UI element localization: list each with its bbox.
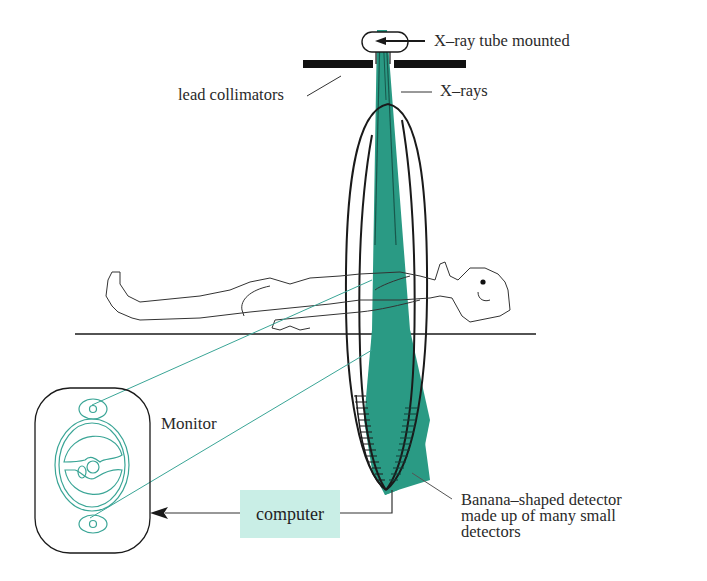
detector-leader-line <box>412 473 452 499</box>
detector-label-line-3: detectors <box>461 524 701 540</box>
collimator-leader-line <box>307 76 341 96</box>
patient <box>106 262 510 330</box>
xrays-label: X–rays <box>440 82 488 99</box>
computer-label: computer <box>256 504 324 525</box>
computer-box: computer <box>240 490 340 538</box>
xray-tube-label: X–ray tube mounted <box>434 32 570 49</box>
xray-beam <box>364 30 430 495</box>
ct-scanner-diagram: X–ray tube mounted lead collimators X–ra… <box>0 0 707 581</box>
lead-collimator-left <box>303 60 373 68</box>
lead-collimators-label: lead collimators <box>178 86 284 103</box>
detector-label: Banana–shaped detector made up of many s… <box>461 492 701 540</box>
monitor-label: Monitor <box>161 415 217 432</box>
monitor-cross-section-image <box>55 399 129 533</box>
lead-collimator-right <box>394 60 466 68</box>
